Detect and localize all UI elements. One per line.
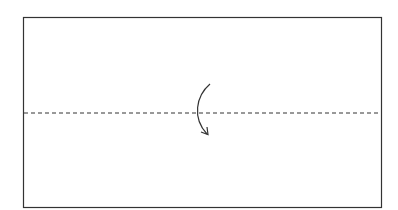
diagram-svg: [0, 0, 398, 210]
fold-diagram: [0, 0, 398, 210]
